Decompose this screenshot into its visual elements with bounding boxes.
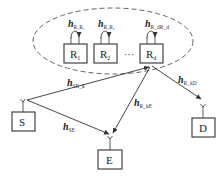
svg-text:hR₂R₂: hR₂R₂ (98, 18, 115, 30)
relay-network-diagram: R1 hR₁R₁ R2 hR₂R₂ ··· Rd hR_dR_d S E (0, 0, 224, 182)
source-label: S (19, 116, 25, 128)
channel-sr-label: hSR_k (67, 77, 85, 89)
eavesdropper-node: E (98, 136, 122, 169)
channel-relay-to-e (113, 67, 150, 133)
source-node: S (12, 99, 35, 131)
relay-r1: R1 hR₁R₁ (64, 18, 87, 63)
channel-rd-label: hR_kD (178, 74, 197, 86)
eavesdropper-label: E (106, 154, 113, 166)
destination-node: D (192, 104, 215, 137)
relay-cluster-ellipse (33, 8, 193, 74)
destination-label: D (199, 122, 207, 134)
self-loop-r2 (101, 31, 109, 38)
channel-s-to-relay (27, 67, 149, 100)
self-loop-rd (147, 31, 155, 38)
relay-ellipsis: ··· (124, 49, 134, 60)
relay-r2: R2 hR₂R₂ (94, 18, 117, 63)
relay-rd: Rd hR_dR_d (140, 18, 169, 63)
svg-text:hR₁R₁: hR₁R₁ (68, 18, 85, 30)
svg-text:hR_dR_d: hR_dR_d (145, 18, 169, 30)
channel-se-label: hSE (63, 121, 76, 133)
self-loop-r1 (71, 31, 79, 38)
channel-re-label: hR_kE (134, 97, 153, 109)
